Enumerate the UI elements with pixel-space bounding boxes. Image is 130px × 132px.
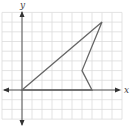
axes: x y (3, 0, 129, 126)
y-axis-label: y (19, 0, 26, 10)
y-axis-arrow-up-icon (20, 11, 25, 17)
x-axis-label: x (124, 85, 129, 95)
y-axis-arrow-down-icon (20, 120, 25, 126)
x-axis-arrow-left-icon (3, 88, 9, 93)
x-axis-arrow-right-icon (115, 88, 121, 93)
coordinate-plane: x y (0, 0, 130, 132)
grid-lines (2, 12, 122, 119)
